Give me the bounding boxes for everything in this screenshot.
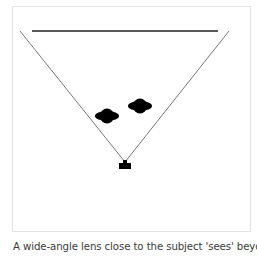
subject-right-blob <box>128 99 152 114</box>
field-of-view-right-line <box>125 31 229 162</box>
figure-caption: A wide-angle lens close to the subject '… <box>13 240 257 254</box>
field-of-view-left-line <box>20 31 125 162</box>
subject-left-blob <box>95 109 119 124</box>
camera-icon <box>119 160 131 169</box>
lens-diagram <box>0 0 257 257</box>
